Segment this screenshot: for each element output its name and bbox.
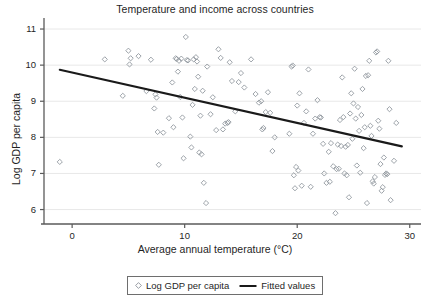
legend-entry-scatter: Log GDP per capita	[135, 280, 229, 291]
x-tick-label: 30	[398, 230, 422, 241]
chart-figure: Temperature and income across countries …	[0, 0, 430, 301]
y-tick-label: 6	[14, 204, 36, 215]
chart-legend: Log GDP per capita Fitted values	[127, 276, 323, 295]
legend-label-line: Fitted values	[261, 280, 315, 291]
y-tick-label: 10	[14, 59, 36, 70]
x-tick-label: 0	[60, 230, 84, 241]
x-tick-label: 20	[285, 230, 309, 241]
scatter-plot-canvas	[0, 0, 430, 301]
axis-lines	[41, 18, 421, 224]
y-tick-label: 11	[14, 23, 36, 34]
gridlines	[44, 29, 421, 210]
x-tick-label: 10	[173, 230, 197, 241]
open-diamond-icon	[135, 282, 142, 289]
x-axis-label: Average annual temperature (°C)	[0, 243, 430, 255]
legend-entry-line: Fitted values	[239, 280, 315, 291]
legend-label-scatter: Log GDP per capita	[146, 280, 229, 291]
line-icon	[239, 283, 257, 289]
scatter-points	[57, 34, 399, 215]
fitted-line	[60, 70, 402, 147]
y-axis-label: Log GDP per capita	[10, 93, 22, 185]
